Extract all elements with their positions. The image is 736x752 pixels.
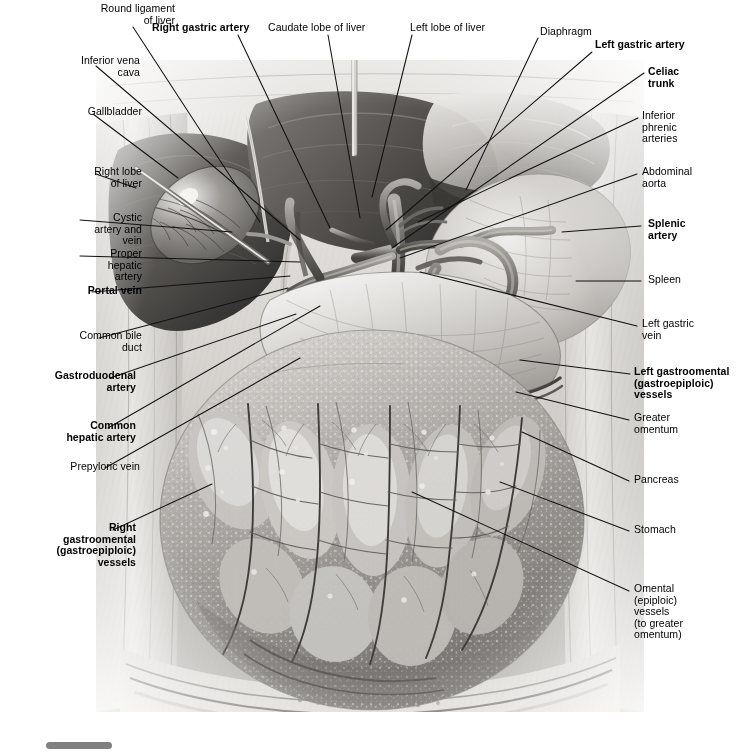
label-gastroduodenal-artery: Gastroduodenal artery	[18, 370, 136, 393]
label-prepyloric-vein: Prepyloric vein	[22, 461, 140, 473]
horizontal-scrollbar[interactable]	[0, 738, 736, 752]
label-common-hepatic-artery: Common hepatic artery	[18, 420, 136, 443]
label-cystic-artery-and-vein: Cystic artery and vein	[24, 212, 142, 247]
label-right-gastroomental-vessels: Right gastroomental (gastroepiploic) ves…	[18, 522, 136, 568]
label-splenic-artery: Splenic artery	[648, 218, 686, 241]
label-right-gastric-artery: Right gastric artery	[152, 22, 249, 34]
label-abdominal-aorta: Abdominal aorta	[642, 166, 692, 189]
label-left-lobe-of-liver: Left lobe of liver	[410, 22, 485, 34]
label-proper-hepatic-artery: Proper hepatic artery	[24, 248, 142, 283]
label-inferior-phrenic-arteries: Inferior phrenic arteries	[642, 110, 677, 145]
label-left-gastroomental-vessels: Left gastroomental (gastroepiploic) vess…	[634, 366, 729, 401]
label-portal-vein: Portal vein	[24, 285, 142, 297]
label-inferior-vena-cava: Inferior vena cava	[22, 55, 140, 78]
anatomy-plate: Round ligament of liverRight gastric art…	[0, 0, 736, 752]
label-spleen: Spleen	[648, 274, 681, 286]
label-diaphragm: Diaphragm	[540, 26, 592, 38]
label-celiac-trunk: Celiac trunk	[648, 66, 679, 89]
label-gallbladder: Gallbladder	[24, 106, 142, 118]
label-left-gastric-vein: Left gastric vein	[642, 318, 694, 341]
label-pancreas: Pancreas	[634, 474, 679, 486]
label-right-lobe-of-liver: Right lobe of liver	[24, 166, 142, 189]
illustration-body	[96, 58, 653, 726]
scrollbar-thumb[interactable]	[46, 742, 112, 749]
label-common-bile-duct: Common bile duct	[24, 330, 142, 353]
label-left-gastric-artery: Left gastric artery	[595, 39, 685, 51]
label-omental-vessels: Omental (epiploic) vessels (to greater o…	[634, 583, 683, 641]
label-greater-omentum: Greater omentum	[634, 412, 678, 435]
label-stomach: Stomach	[634, 524, 676, 536]
label-caudate-lobe-of-liver: Caudate lobe of liver	[268, 22, 365, 34]
